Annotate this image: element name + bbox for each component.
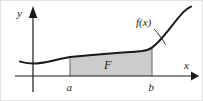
figure-canvas: y x a b F f(x) bbox=[0, 0, 203, 101]
upper-bound-label-b: b bbox=[149, 81, 155, 93]
area-under-curve-figure: y x a b F f(x) bbox=[0, 0, 203, 101]
region-label-F: F bbox=[103, 58, 112, 72]
y-axis-label: y bbox=[16, 7, 22, 19]
lower-bound-label-a: a bbox=[67, 81, 73, 93]
function-label-fx: f(x) bbox=[136, 16, 152, 29]
x-axis-label: x bbox=[183, 59, 189, 71]
